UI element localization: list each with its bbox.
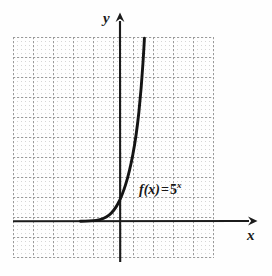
- graph-canvas: [0, 0, 272, 276]
- y-axis-label: y: [103, 11, 110, 26]
- function-name-text: f(x): [139, 182, 160, 197]
- exponential-function-graph-figure: y x f(x)=5x: [0, 0, 272, 276]
- function-base-text: 5: [170, 182, 177, 197]
- function-exponent-text: x: [177, 180, 182, 190]
- grid: [13, 37, 214, 258]
- function-equation-label: f(x)=5x: [139, 183, 181, 197]
- equals-sign-text: =: [160, 182, 170, 197]
- x-axis-label: x: [247, 228, 255, 243]
